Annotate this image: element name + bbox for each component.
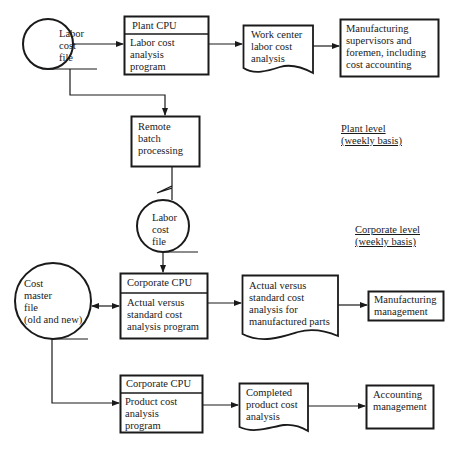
line: manufactured parts <box>249 316 330 328</box>
labor-cost-file-plant-label: Labor cost file <box>59 28 84 64</box>
line: Remote <box>138 121 183 133</box>
line: analysis <box>251 53 302 65</box>
line: (weekly basis) <box>355 236 420 248</box>
line: product cost <box>246 399 298 411</box>
line: file <box>59 52 84 64</box>
connectors <box>52 44 367 406</box>
line: Plant level <box>341 123 402 135</box>
line: Actual versus <box>127 297 199 309</box>
line: Actual versus <box>249 280 330 292</box>
line: analysis <box>125 408 177 420</box>
cost-master-file-label: Cost master file (old and new) <box>24 278 82 326</box>
line: Labor <box>59 28 84 40</box>
remote-batch-label: Remote batch processing <box>138 121 183 157</box>
line: Accounting <box>373 389 427 401</box>
mfg-management-label: Manufacturing management <box>374 294 436 318</box>
line: Cost <box>24 278 82 290</box>
line: supervisors and <box>346 35 426 47</box>
accounting-management-label: Accounting management <box>373 389 427 413</box>
line: program <box>130 61 175 73</box>
plant-level-annotation: Plant level (weekly basis) <box>341 123 402 147</box>
line: Manufacturing <box>346 23 426 35</box>
line: Work center <box>251 29 302 41</box>
plant-cpu-header: Plant CPU <box>132 20 177 32</box>
line: management <box>373 401 427 413</box>
line: cost <box>152 224 177 236</box>
completed-product-doc-label: Completed product cost analysis <box>246 387 298 423</box>
corporate-cpu-1-header: Corporate CPU <box>127 277 192 289</box>
line: foremen, including <box>346 47 426 59</box>
line: standard cost <box>127 309 199 321</box>
line: cost <box>59 40 84 52</box>
line: file <box>24 302 82 314</box>
line: processing <box>138 145 183 157</box>
work-center-doc-label: Work center labor cost analysis <box>251 29 302 65</box>
line: (old and new) <box>24 314 82 326</box>
line: (weekly basis) <box>341 135 402 147</box>
line: Corporate level <box>355 224 420 236</box>
plant-cpu-label: Labor cost analysis program <box>130 37 175 73</box>
line: file <box>152 236 177 248</box>
line: labor cost <box>251 41 302 53</box>
line: batch <box>138 133 183 145</box>
line: cost accounting <box>346 59 426 71</box>
line: analysis <box>246 411 298 423</box>
corporate-cpu-2-header: Corporate CPU <box>126 378 191 390</box>
line: analysis <box>130 49 175 61</box>
line: Manufacturing <box>374 294 436 306</box>
corporate-cpu-2-label: Product cost analysis program <box>125 396 177 432</box>
mfg-supervisors-label: Manufacturing supervisors and foremen, i… <box>346 23 426 71</box>
labor-cost-file-corp-label: Labor cost file <box>152 212 177 248</box>
line: program <box>125 420 177 432</box>
line: Labor cost <box>130 37 175 49</box>
line: Product cost <box>125 396 177 408</box>
corporate-level-annotation: Corporate level (weekly basis) <box>355 224 420 248</box>
line: master <box>24 290 82 302</box>
line: management <box>374 306 436 318</box>
line: Labor <box>152 212 177 224</box>
line: analysis for <box>249 304 330 316</box>
actual-vs-standard-doc-label: Actual versus standard cost analysis for… <box>249 280 330 328</box>
corporate-cpu-1-label: Actual versus standard cost analysis pro… <box>127 297 199 333</box>
line: standard cost <box>249 292 330 304</box>
line: analysis program <box>127 321 199 333</box>
line: Completed <box>246 387 298 399</box>
